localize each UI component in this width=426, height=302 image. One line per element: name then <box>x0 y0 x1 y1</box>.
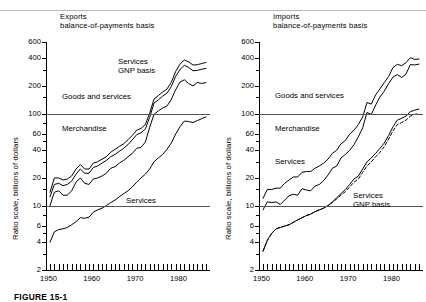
x-tick-1970 <box>350 264 351 270</box>
y-tick-label-60: 60 <box>12 129 41 138</box>
x-tick-1959 <box>89 264 90 270</box>
y-minor-tick-8 <box>43 215 47 216</box>
y-minor-tick-80 <box>43 123 47 124</box>
y-tick-label-4: 4 <box>12 237 41 246</box>
x-tick-1960 <box>306 264 307 270</box>
y-tick-60 <box>42 134 47 135</box>
x-tick-label-1970: 1970 <box>340 274 357 283</box>
x-tick-1957 <box>293 264 294 270</box>
x-tick-1981 <box>397 264 398 270</box>
x-tick-1956 <box>289 264 290 270</box>
y-tick-label-10: 10 <box>12 201 41 210</box>
imports-plot-area: 600400200100604020106421950196019701980 <box>213 0 426 302</box>
exports-label-services: Services <box>126 196 156 205</box>
x-tick-1959 <box>302 264 303 270</box>
panel-exports: Exports balance-of-payments basis Ratio … <box>0 0 213 302</box>
x-tick-1952 <box>59 264 60 270</box>
x-tick-1976 <box>376 264 377 270</box>
x-tick-1962 <box>315 264 316 270</box>
y-minor-tick-30 <box>43 162 47 163</box>
x-tick-1961 <box>98 264 99 270</box>
y-minor-tick-150 <box>256 97 260 98</box>
x-tick-1950 <box>263 264 264 270</box>
x-tick-1971 <box>354 264 355 270</box>
figure-caption: FIGURE 15-1 <box>14 292 68 302</box>
y-tick-20 <box>42 178 47 179</box>
x-tick-label-1980: 1980 <box>170 274 187 283</box>
exports-label-services-gnp-line2: GNP basis <box>118 66 155 75</box>
x-tick-1958 <box>298 264 299 270</box>
y-tick-20 <box>255 178 260 179</box>
x-tick-1968 <box>128 264 129 270</box>
y-tick-label-6: 6 <box>225 221 254 230</box>
x-tick-1960 <box>93 264 94 270</box>
x-tick-1978 <box>384 264 385 270</box>
y-tick-label-40: 40 <box>12 145 41 154</box>
x-tick-1968 <box>341 264 342 270</box>
x-tick-1955 <box>285 264 286 270</box>
y-tick-200 <box>42 86 47 87</box>
y-minor-tick-3 <box>43 254 47 255</box>
x-tick-1979 <box>176 264 177 270</box>
x-tick-1954 <box>67 264 68 270</box>
y-tick-label-6: 6 <box>12 221 41 230</box>
x-tick-1953 <box>63 264 64 270</box>
x-tick-label-1970: 1970 <box>127 274 144 283</box>
y-tick-2 <box>42 270 47 271</box>
x-tick-1986 <box>206 264 207 270</box>
x-tick-1955 <box>72 264 73 270</box>
x-tick-1973 <box>363 264 364 270</box>
x-tick-1984 <box>410 264 411 270</box>
y-minor-tick-80 <box>256 123 260 124</box>
x-tick-1966 <box>119 264 120 270</box>
x-tick-1951 <box>54 264 55 270</box>
x-tick-1973 <box>150 264 151 270</box>
x-tick-1983 <box>406 264 407 270</box>
y-minor-tick-30 <box>256 162 260 163</box>
x-tick-label-1950: 1950 <box>40 274 57 283</box>
figure-root: Exports balance-of-payments basis Ratio … <box>0 0 426 302</box>
x-tick-1981 <box>184 264 185 270</box>
y-tick-label-400: 400 <box>12 53 41 62</box>
x-tick-1964 <box>324 264 325 270</box>
y-tick-600 <box>255 42 260 43</box>
x-tick-1969 <box>345 264 346 270</box>
x-tick-1977 <box>167 264 168 270</box>
y-tick-label-2: 2 <box>12 265 41 274</box>
x-tick-1967 <box>124 264 125 270</box>
x-tick-1967 <box>337 264 338 270</box>
y-tick-600 <box>42 42 47 43</box>
y-tick-label-20: 20 <box>12 173 41 182</box>
x-tick-1977 <box>380 264 381 270</box>
x-tick-1982 <box>189 264 190 270</box>
y-minor-tick-50 <box>43 141 47 142</box>
reference-line-10 <box>259 206 423 207</box>
exports-label-goods-and-services: Goods and services <box>62 92 131 101</box>
x-tick-1980 <box>393 264 394 270</box>
x-tick-1972 <box>145 264 146 270</box>
y-minor-tick-15 <box>43 189 47 190</box>
exports-label-services-gnp: Services GNP basis <box>118 57 155 76</box>
imports-label-goods-and-services: Goods and services <box>275 91 344 100</box>
imports-label-services-gnp-line1: Services <box>353 191 383 200</box>
y-tick-label-2: 2 <box>225 265 254 274</box>
x-tick-1985 <box>202 264 203 270</box>
y-tick-4 <box>255 242 260 243</box>
x-tick-1979 <box>389 264 390 270</box>
imports-label-merchandise: Merchandise <box>275 124 320 133</box>
x-tick-1963 <box>319 264 320 270</box>
x-tick-1978 <box>171 264 172 270</box>
x-tick-1961 <box>311 264 312 270</box>
x-tick-label-1980: 1980 <box>383 274 400 283</box>
y-minor-tick-150 <box>43 97 47 98</box>
x-tick-1985 <box>415 264 416 270</box>
y-tick-label-600: 600 <box>12 37 41 46</box>
x-tick-1983 <box>193 264 194 270</box>
y-tick-400 <box>42 58 47 59</box>
reference-line-10 <box>46 206 210 207</box>
y-minor-tick-300 <box>256 70 260 71</box>
exports-label-services-gnp-line1: Services <box>118 57 148 66</box>
exports-plot-area: 600400200100604020106421950196019701980 <box>0 0 213 302</box>
x-tick-1956 <box>76 264 77 270</box>
y-tick-label-40: 40 <box>225 145 254 154</box>
